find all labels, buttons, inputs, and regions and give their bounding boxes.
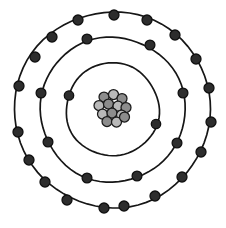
electron-shell3-2 [142,15,152,25]
electron-shell2-4 [132,171,142,181]
electron-shell3-15 [13,127,23,137]
electron-shell3-18 [47,32,57,42]
nucleon-neutron-13 [120,112,130,122]
electron-shell3-5 [204,83,214,93]
electron-shell3-8 [177,172,187,182]
electron-shell2-6 [43,137,53,147]
electron-shell2-3 [172,138,182,148]
electron-shell3-16 [14,81,24,91]
electron-shell3-11 [99,203,109,213]
electron-shell2-5 [82,173,92,183]
electron-shell3-17 [30,52,40,62]
electron-shell3-13 [40,177,50,187]
electron-shell1-2 [151,119,160,128]
electron-shell2-2 [178,88,188,98]
electron-shell3-12 [62,195,72,205]
electron-shell3-4 [191,54,201,64]
nucleus-cluster [94,90,131,128]
nucleon-neutron-11 [102,117,112,127]
atom-svg-canvas [0,0,226,228]
electron-shell3-14 [24,155,34,165]
electron-shell2-8 [82,34,92,44]
electron-shell3-10 [119,201,129,211]
bohr-model-atom-diagram [0,0,226,228]
electron-shell3-6 [206,117,216,127]
electron-shell3-7 [196,147,206,157]
electron-shell1-1 [64,91,73,100]
electron-shell2-7 [36,88,46,98]
electron-shell3-19 [73,15,83,25]
electron-shell3-3 [170,30,180,40]
electron-shell2-1 [145,40,155,50]
electron-shell3-1 [109,10,119,20]
electron-shell3-9 [150,191,160,201]
